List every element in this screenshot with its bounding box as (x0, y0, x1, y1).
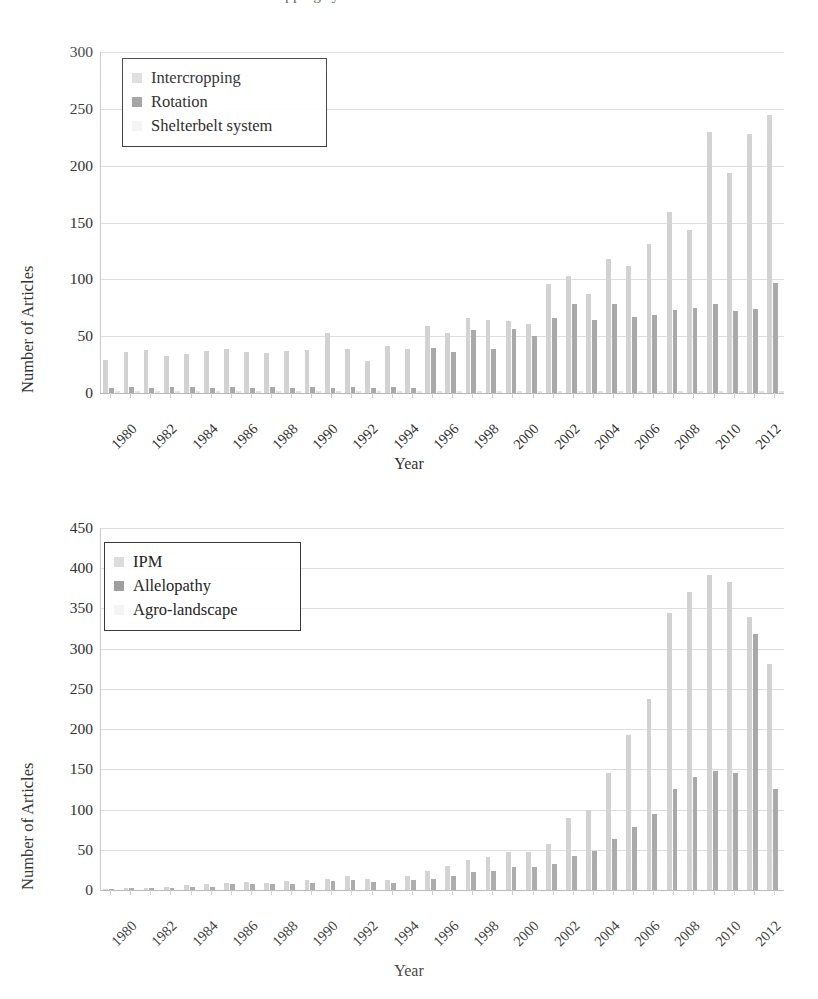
bar-group (402, 528, 422, 890)
y-tick-label: 0 (85, 881, 100, 899)
y-tick-label: 350 (70, 599, 100, 617)
legend-item: Agro-landscape (114, 598, 288, 622)
y-tick-label: 450 (70, 519, 100, 537)
bar (244, 352, 249, 393)
x-tick-label: 2004 (591, 421, 624, 454)
bar (310, 883, 315, 890)
bar (224, 349, 229, 393)
x-tick (613, 890, 614, 895)
bar (727, 582, 732, 890)
bar-group (321, 528, 341, 890)
x-tick (754, 890, 755, 895)
bar-group (563, 528, 583, 890)
bar-group (623, 528, 643, 890)
bar-group (462, 528, 482, 890)
y-axis-title: Number of Articles (18, 763, 38, 890)
bar (425, 326, 430, 393)
x-tick (331, 890, 332, 895)
bar-group (502, 52, 522, 393)
legend-swatch-icon (132, 73, 142, 83)
bar (451, 876, 456, 890)
y-tick-label: 50 (78, 840, 101, 858)
bar (204, 351, 209, 393)
bar (626, 266, 631, 393)
bar-group (462, 52, 482, 393)
bar-group (382, 52, 402, 393)
x-tick (512, 890, 513, 895)
bar (592, 851, 597, 890)
x-tick (351, 393, 352, 398)
bar (445, 866, 450, 890)
x-tick (714, 393, 715, 398)
x-tick (653, 393, 654, 398)
x-tick-label: 1994 (390, 421, 423, 454)
x-tick-label: 1986 (229, 421, 262, 454)
x-tick (472, 393, 473, 398)
x-tick (673, 393, 674, 398)
bar-group (341, 528, 361, 890)
x-tick (150, 393, 151, 398)
bar (305, 880, 310, 890)
legend-item: Allelopathy (114, 574, 288, 598)
y-axis-title: Number of Articles (18, 266, 38, 393)
bar-group (422, 528, 442, 890)
bar (673, 310, 678, 393)
bar (546, 844, 551, 890)
bar (733, 773, 738, 890)
x-tick-label: 1990 (309, 918, 342, 951)
bar (667, 613, 672, 890)
bar-group (744, 52, 764, 393)
x-tick-label: 1988 (269, 918, 302, 951)
x-tick-label: 1984 (189, 421, 222, 454)
bar (779, 391, 784, 393)
bar-group (522, 52, 542, 393)
x-tick (452, 393, 453, 398)
x-tick (291, 393, 292, 398)
bar-group (603, 52, 623, 393)
bar (284, 881, 289, 890)
bar (486, 320, 491, 393)
bar-group (643, 52, 663, 393)
x-tick (553, 890, 554, 895)
x-tick-label: 2004 (591, 918, 624, 951)
x-tick (714, 890, 715, 895)
bar (103, 360, 108, 393)
bar-group (583, 52, 603, 393)
bar-group (563, 52, 583, 393)
bar-group (362, 528, 382, 890)
bar (103, 889, 108, 890)
bar (224, 883, 229, 890)
bar-group (683, 52, 703, 393)
bar-group (522, 528, 542, 890)
bar (713, 771, 718, 890)
x-tick (774, 890, 775, 895)
chart-bottom: Number of Articles0501001502002503003504… (0, 500, 818, 999)
bar-group (764, 528, 784, 890)
bar (767, 664, 772, 890)
bar (431, 879, 436, 890)
bar (345, 349, 350, 393)
bar (632, 827, 637, 890)
x-tick (593, 890, 594, 895)
bar (124, 888, 129, 890)
x-tick-label: 2006 (631, 421, 664, 454)
x-tick (573, 393, 574, 398)
bar (506, 321, 511, 393)
bar (425, 871, 430, 890)
y-tick-label: 300 (70, 43, 100, 61)
bar-group (663, 528, 683, 890)
legend-item: Intercropping (132, 66, 314, 90)
y-tick-label: 400 (70, 559, 100, 577)
legend-label: Shelterbelt system (151, 116, 272, 136)
bar (405, 876, 410, 890)
cropped-caption: Numbers of articles on weed-related crop… (0, 0, 818, 14)
bar-group (543, 528, 563, 890)
bar (747, 617, 752, 890)
bar-group (100, 52, 120, 393)
x-axis-title: Year (0, 455, 818, 473)
bar-group (724, 528, 744, 890)
bar (264, 353, 269, 393)
bar (431, 348, 436, 393)
bar (693, 308, 698, 393)
x-tick (311, 393, 312, 398)
